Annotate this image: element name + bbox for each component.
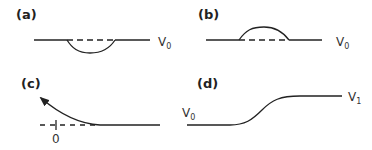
- panel-b: (b) V0: [198, 7, 349, 51]
- panel-d-label: (d): [197, 76, 218, 91]
- panel-d: (d) V0 V1: [182, 76, 361, 125]
- panel-c: (c) 0: [21, 76, 160, 146]
- panel-a-label: (a): [16, 7, 37, 22]
- panel-c-label: (c): [21, 76, 41, 91]
- panel-a-level: V0: [158, 35, 171, 51]
- panel-d-end: V1: [348, 90, 361, 106]
- panel-b-level: V0: [336, 35, 349, 51]
- diagram: (a) V0 (b) V0 (c) 0 (d) V0 V1: [0, 0, 372, 150]
- panel-b-label: (b): [198, 7, 219, 22]
- panel-c-origin: 0: [52, 132, 60, 146]
- panel-d-start: V0: [182, 106, 195, 122]
- arrow-curve: [41, 98, 160, 125]
- panel-a: (a) V0: [16, 7, 171, 53]
